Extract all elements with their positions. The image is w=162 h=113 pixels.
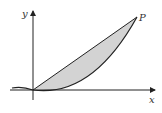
y-axis-label: y [21,8,28,19]
x-axis-label: x [149,94,155,105]
diagram: y x P [0,0,162,113]
point-p-label: P [138,12,146,23]
chord-line [33,17,137,90]
